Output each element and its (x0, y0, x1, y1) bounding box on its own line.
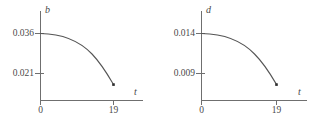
y-tick-label-upper: 0.036 (2, 29, 34, 39)
curve-endpoint-marker-b (112, 83, 115, 86)
figure-container: 0.036 0.021 0 19 b t 0.014 0.009 0 19 d … (0, 0, 315, 127)
chart-panel-b: 0.036 0.021 0 19 b t (0, 0, 157, 127)
plot-area-d (157, 0, 314, 127)
x-tick-label-19: 19 (106, 106, 121, 116)
y-axis-name-b: b (45, 5, 50, 15)
chart-panel-d: 0.014 0.009 0 19 d t (157, 0, 314, 127)
y-axis-name-d: d (206, 5, 211, 15)
x-tick-label-19: 19 (269, 106, 284, 116)
x-tick-label-origin: 0 (33, 106, 48, 116)
curve-endpoint-marker-d (275, 83, 278, 86)
y-tick-label-lower: 0.021 (2, 69, 34, 79)
plot-area-b (0, 0, 157, 127)
x-axis-name-t: t (298, 87, 301, 97)
y-tick-label-lower: 0.009 (161, 69, 195, 79)
y-tick-label-upper: 0.014 (161, 29, 195, 39)
x-axis-name-t: t (134, 87, 137, 97)
x-tick-label-origin: 0 (194, 106, 209, 116)
data-curve-d (202, 34, 277, 85)
data-curve-b (41, 34, 114, 85)
